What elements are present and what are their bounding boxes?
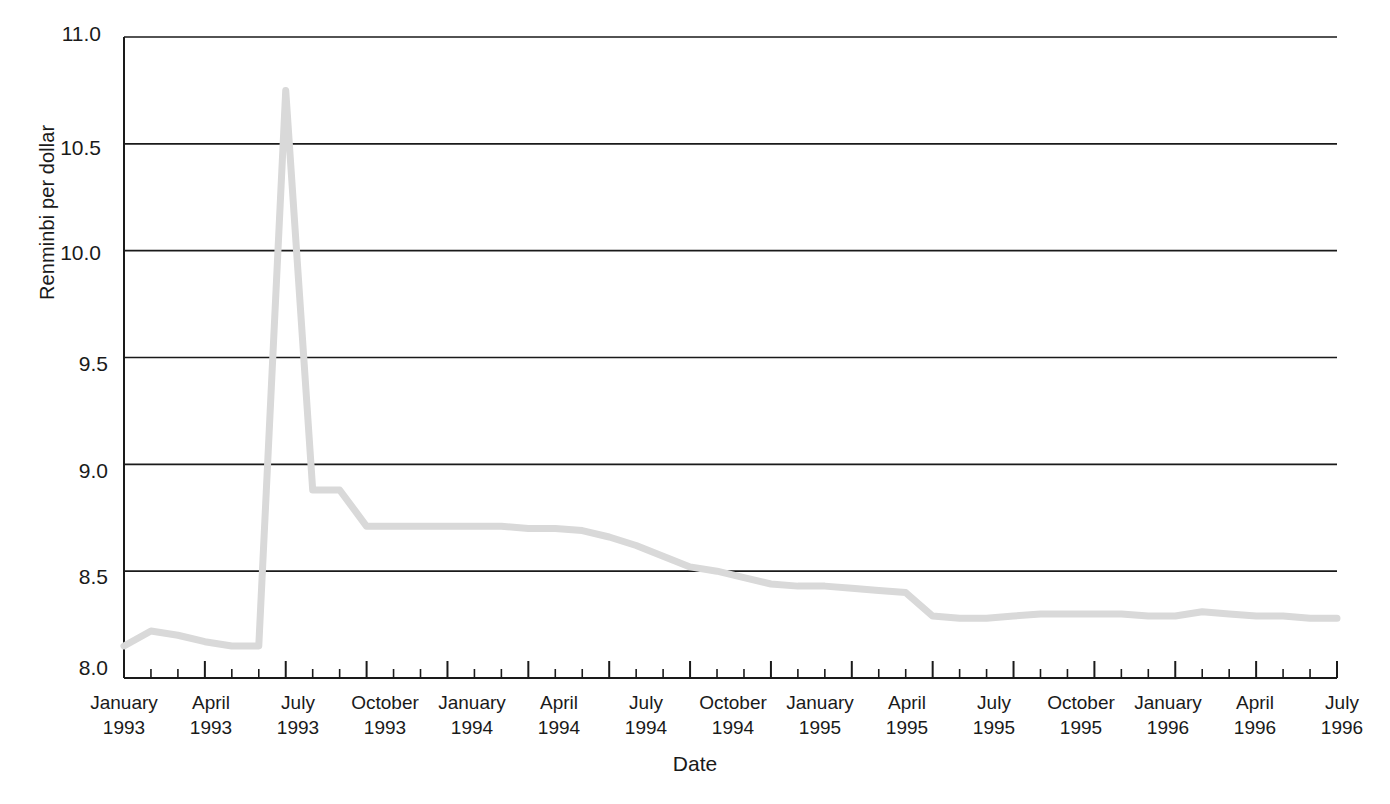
data-series-line (124, 90, 1337, 646)
x-tick-marks-group (124, 661, 1337, 678)
plot-area (0, 0, 1390, 804)
chart-figure: Renminbi per dollar 8.0 8.5 9.0 9.5 10.0… (0, 0, 1390, 804)
